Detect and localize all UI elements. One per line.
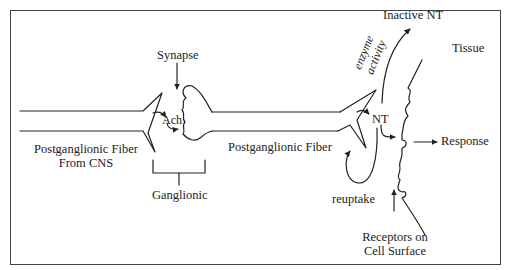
- preganglionic-fiber-label-line2: From CNS: [22, 156, 150, 170]
- postganglionic-terminal: [338, 90, 376, 148]
- receptors-label: Receptors on Cell Surface: [350, 230, 440, 258]
- synapse-label: Synapse: [157, 48, 199, 62]
- preganglionic-fiber-label-line1: Postganglionic Fiber: [22, 142, 150, 156]
- tissue-label: Tissue: [452, 41, 484, 55]
- tissue-membrane: [398, 60, 425, 235]
- response-label: Response: [441, 134, 489, 148]
- preganglionic-fiber-label: Postganglionic Fiber From CNS: [22, 142, 150, 170]
- nt-label: NT: [372, 112, 389, 126]
- receptors-label-line2: Cell Surface: [350, 244, 440, 258]
- receptors-label-line1: Receptors on: [350, 230, 440, 244]
- postganglionic-fiber-label: Postganglionic Fiber: [228, 140, 332, 154]
- ganglionic-label: Ganglionic: [152, 188, 208, 202]
- reuptake-label: reuptake: [332, 192, 375, 206]
- ganglion-cell: [182, 86, 340, 140]
- ach-label: Ach: [162, 113, 182, 127]
- inactive-nt-label: Inactive NT: [383, 8, 443, 22]
